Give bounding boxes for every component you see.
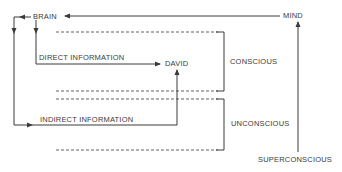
unconscious-bracket — [216, 99, 224, 150]
indirect-information-label: INDIRECT INFORMATION — [40, 116, 133, 124]
conscious-label: CONSCIOUS — [230, 58, 277, 66]
david-label: DAVID — [165, 60, 188, 68]
direct-information-label: DIRECT INFORMATION — [39, 54, 124, 62]
superconscious-label: SUPERCONSCIOUS — [258, 156, 332, 164]
conscious-bracket — [216, 32, 224, 91]
unconscious-label: UNCONSCIOUS — [231, 120, 289, 128]
mind-brain-diagram: BRAIN MIND DIRECT INFORMATION DAVID CONS… — [0, 0, 342, 172]
mind-label: MIND — [283, 12, 303, 20]
brain-label: BRAIN — [33, 13, 57, 21]
diagram-lines — [0, 0, 342, 172]
